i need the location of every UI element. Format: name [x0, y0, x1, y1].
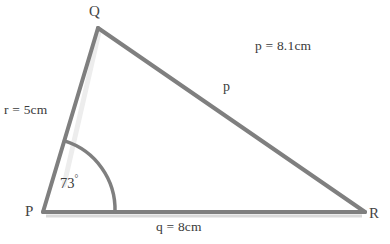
angle-p-label: 73°	[60, 176, 78, 191]
side-r-measure-label: r = 5cm	[4, 103, 48, 117]
triangle-figure: Q P R r = 5cm p = 8.1cm p q = 8cm 73°	[0, 0, 390, 244]
side-p-measure-label: p = 8.1cm	[255, 39, 311, 53]
vertex-label-q: Q	[89, 4, 100, 19]
side-q-measure-label: q = 8cm	[156, 220, 202, 234]
side-p-line	[98, 28, 365, 212]
angle-p-value: 73	[60, 175, 75, 191]
ghost-stroke-artifact	[64, 32, 99, 185]
degree-symbol-icon: °	[75, 174, 79, 184]
side-p-name-label: p	[223, 80, 230, 94]
vertex-label-r: R	[369, 206, 379, 221]
triangle-drawing	[0, 0, 390, 244]
vertex-label-p: P	[25, 204, 33, 219]
